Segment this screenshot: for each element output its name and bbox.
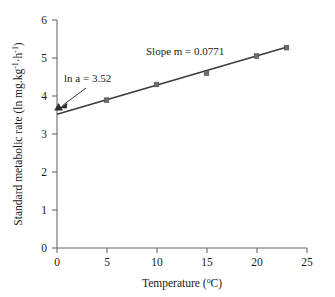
x-axis-title: Temperature (oC) — [142, 276, 222, 290]
metabolic-rate-scatter-chart: 0 1 2 3 4 5 6 0 5 10 15 20 25 — [0, 0, 335, 297]
y-axis-tick-labels: 0 1 2 3 4 5 6 — [41, 14, 47, 254]
y-axis-title-close: ) — [12, 42, 25, 46]
intercept-annotation: ln a = 3.52 — [64, 72, 111, 84]
data-point-marker — [104, 98, 109, 103]
x-axis-tick-labels: 0 5 10 15 20 25 — [54, 256, 313, 268]
y-axis-ticks — [52, 20, 57, 248]
intercept-leader-arrow — [59, 88, 86, 109]
data-point-marker — [254, 54, 259, 59]
x-tick-label-10: 10 — [151, 256, 163, 268]
x-tick-label-0: 0 — [54, 256, 60, 268]
x-tick-label-25: 25 — [301, 256, 313, 268]
y-axis-title: Standard metabolic rate (ln mg.kg-1·h-1) — [11, 42, 25, 225]
y-tick-label-1: 1 — [41, 204, 47, 216]
y-tick-label-4: 4 — [41, 90, 47, 102]
y-axis-title-mid: ·h — [12, 52, 24, 62]
data-point-marker — [284, 45, 289, 50]
leader-arrowhead — [59, 103, 67, 109]
slope-annotation: Slope m = 0.0771 — [146, 45, 224, 57]
data-point-marker — [204, 71, 209, 76]
x-axis-title-unit: C) — [211, 277, 223, 290]
y-tick-label-3: 3 — [41, 128, 47, 140]
leader-line — [63, 88, 87, 106]
data-point-marker — [154, 82, 159, 87]
x-tick-label-15: 15 — [201, 256, 213, 268]
figure-container: 0 1 2 3 4 5 6 0 5 10 15 20 25 — [0, 0, 335, 297]
x-axis-title-main: Temperature ( — [142, 277, 207, 290]
x-axis-ticks — [57, 248, 307, 253]
y-tick-label-5: 5 — [41, 52, 47, 64]
y-tick-label-0: 0 — [41, 242, 47, 254]
y-axis-title-main: Standard metabolic rate (ln mg.kg — [12, 69, 25, 226]
y-tick-label-6: 6 — [41, 14, 47, 26]
y-tick-label-2: 2 — [41, 166, 47, 178]
x-tick-label-5: 5 — [104, 256, 110, 268]
x-tick-label-20: 20 — [251, 256, 263, 268]
